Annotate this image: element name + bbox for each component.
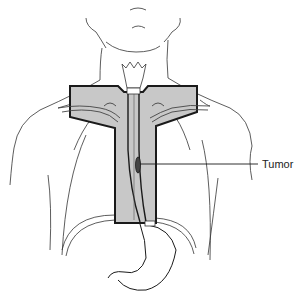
torso-diagram [0, 0, 303, 293]
gastroesophageal-junction [145, 221, 155, 226]
tumor-marker [136, 157, 141, 173]
stomach [108, 224, 176, 290]
tumor-label: Tumor [262, 158, 293, 170]
larynx [122, 62, 146, 94]
